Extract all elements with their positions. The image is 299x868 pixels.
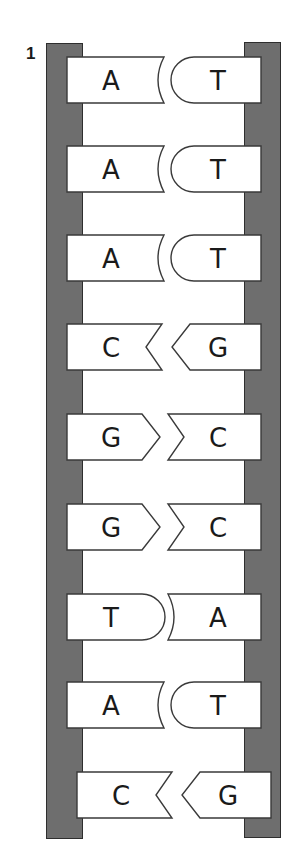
left-base-letter: A (102, 691, 120, 721)
base-pair: AT (67, 57, 261, 103)
base-pair: AT (67, 146, 261, 192)
left-base-letter: A (102, 66, 120, 96)
left-base-letter: A (102, 244, 120, 274)
base-pair: AT (67, 235, 261, 281)
left-base-letter: G (101, 513, 121, 543)
left-base-letter: A (102, 155, 120, 185)
base-pairs-ladder: ATATATCGGCGCTAATCG (0, 0, 299, 868)
left-base-letter: T (102, 603, 119, 633)
base-pair: TA (67, 594, 261, 640)
right-base-letter: G (218, 781, 238, 811)
base-pair: GC (67, 504, 261, 550)
right-base-letter: T (209, 155, 226, 185)
base-pair: CG (77, 772, 271, 818)
right-base-letter: T (209, 691, 226, 721)
right-base-letter: G (208, 333, 228, 363)
right-base-letter: A (209, 603, 227, 633)
right-base-letter: T (209, 244, 226, 274)
right-base-letter: C (209, 423, 227, 453)
right-base-letter: T (209, 66, 226, 96)
base-pair: GC (67, 414, 261, 460)
left-base-letter: C (102, 333, 120, 363)
base-pair: AT (67, 682, 261, 728)
right-base-letter: C (209, 513, 227, 543)
left-base-letter: G (101, 423, 121, 453)
left-base-letter: C (112, 781, 130, 811)
base-pair: CG (67, 324, 261, 370)
